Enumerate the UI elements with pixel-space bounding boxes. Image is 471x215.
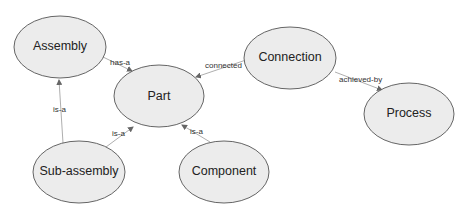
node-label: Component [192, 164, 257, 178]
edge-label-has-a: has-a [110, 58, 131, 67]
node-process[interactable]: Process [364, 83, 454, 145]
node-component[interactable]: Component [179, 141, 269, 203]
edge-component-is-a-part: is-a [182, 125, 210, 142]
edge-label-connected: connected [205, 61, 242, 70]
node-label: Connection [258, 50, 321, 64]
edge-label-is-a: is-a [112, 129, 125, 138]
node-label: Part [148, 89, 171, 103]
edge-connection-connected-part: connected [196, 60, 246, 77]
edge-label-is-a: is-a [53, 105, 66, 114]
concept-diagram: has-a connected achieved-by is-a is-a is… [0, 0, 471, 215]
edge-label-achieved-by: achieved-by [339, 75, 382, 84]
node-sub-assembly[interactable]: Sub-assembly [33, 141, 125, 203]
node-connection[interactable]: Connection [244, 27, 336, 89]
edge-assembly-has-a-part: has-a [103, 57, 132, 71]
node-label: Assembly [33, 39, 88, 53]
node-label: Sub-assembly [39, 164, 119, 178]
node-part[interactable]: Part [114, 65, 204, 127]
edge-subassembly-is-a-part: is-a [106, 127, 133, 147]
edge-subassembly-is-a-assembly: is-a [53, 80, 66, 143]
node-label: Process [386, 106, 431, 120]
edge-label-is-a: is-a [190, 127, 203, 136]
node-assembly[interactable]: Assembly [14, 16, 106, 78]
edge-connection-achieved-by-process: achieved-by [335, 72, 382, 90]
